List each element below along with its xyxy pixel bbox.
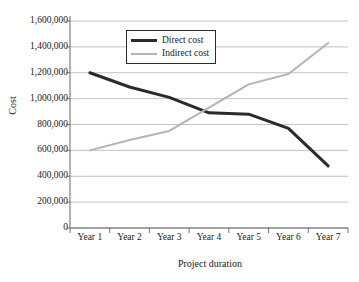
x-tick-label: Year 2 (117, 232, 142, 242)
x-tick-label: Year 1 (78, 232, 103, 242)
x-axis-title: Project duration (70, 258, 350, 269)
legend-label-indirect: Indirect cost (162, 47, 209, 60)
x-tick-label: Year 7 (316, 232, 341, 242)
x-tick-label: Year 3 (157, 232, 182, 242)
line-chart: Cost 0200,000400,000600,000800,0001,000,… (0, 0, 359, 282)
x-tick-label: Year 5 (236, 232, 261, 242)
legend-item-indirect-cost: Indirect cost (131, 47, 209, 60)
series-line-direct-cost (90, 73, 328, 166)
x-tick-label: Year 6 (276, 232, 301, 242)
legend-item-direct-cost: Direct cost (131, 34, 209, 47)
chart-legend: Direct cost Indirect cost (126, 30, 216, 64)
legend-swatch-indirect-icon (131, 53, 157, 55)
legend-swatch-direct-icon (131, 39, 157, 42)
x-tick-label: Year 4 (197, 232, 222, 242)
legend-label-direct: Direct cost (162, 34, 203, 47)
